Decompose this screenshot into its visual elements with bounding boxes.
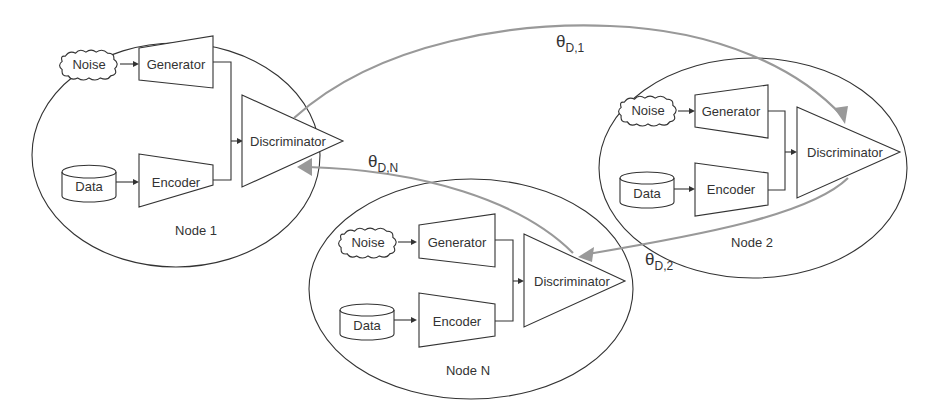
gan-network-diagram: Noise Generator Data Encoder Discriminat…: [0, 0, 941, 405]
theta-d1-label: θD,1: [556, 32, 584, 55]
discriminator-label: Discriminator: [807, 145, 884, 160]
encoder-label: Encoder: [707, 182, 756, 197]
noise-label: Noise: [631, 103, 664, 118]
discriminator-label: Discriminator: [534, 274, 611, 289]
node-label: Node 2: [731, 235, 773, 250]
arrow-head-icon: [834, 106, 848, 124]
generator-label: Generator: [147, 57, 206, 72]
node-1: Noise Generator Data Encoder Discriminat…: [32, 36, 343, 267]
data-label: Data: [353, 318, 381, 333]
node-n: Noise Generator Data Encoder Discriminat…: [309, 179, 633, 399]
data-label: Data: [75, 179, 103, 194]
noise-label: Noise: [72, 57, 105, 72]
data-label: Data: [633, 186, 661, 201]
encoder-label: Encoder: [433, 314, 482, 329]
encoder-label: Encoder: [152, 175, 201, 190]
discriminator-label: Discriminator: [250, 134, 327, 149]
node-label: Node N: [446, 363, 490, 378]
noise-label: Noise: [351, 235, 384, 250]
generator-label: Generator: [702, 104, 761, 119]
generator-label: Generator: [428, 235, 487, 250]
theta-d2-label: θD,2: [645, 250, 673, 273]
node-label: Node 1: [175, 223, 217, 238]
